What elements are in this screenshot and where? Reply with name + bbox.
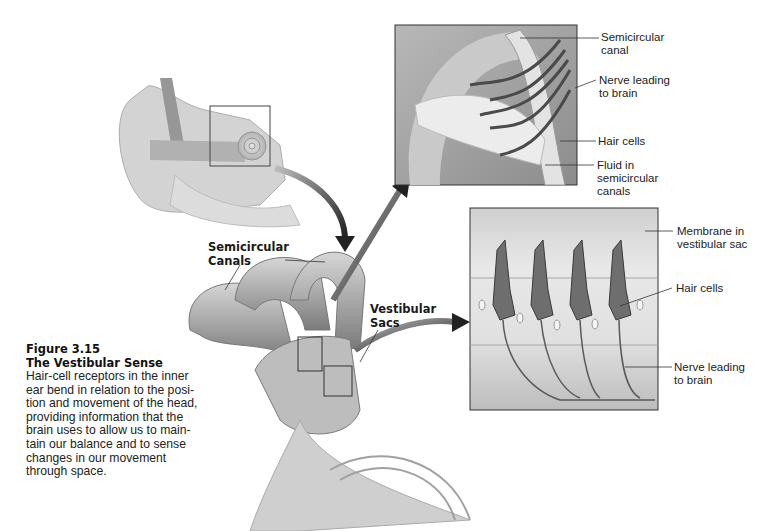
bottom-inset-vestibular-sac (470, 208, 658, 410)
caption-line: ear bend in relation to the posi- (26, 384, 201, 398)
caption-line: changes in our movement (26, 452, 201, 466)
caption-line: brain uses to allow us to main- (26, 424, 201, 438)
caption-line: providing information that the (26, 411, 201, 425)
top-inset-semicircular-canal (395, 25, 577, 185)
figure-number: Figure 3.15 (26, 342, 201, 356)
label-hair-cells-bottom: Hair cells (676, 282, 723, 295)
label-hair-cells-top: Hair cells (598, 135, 645, 148)
label-vestibular-sacs: Vestibular Sacs (370, 302, 436, 330)
caption-line: tion and movement of the head, (26, 397, 201, 411)
figure-caption: Figure 3.15 The Vestibular Sense Hair-ce… (26, 342, 201, 479)
label-nerve-top: Nerve leading to brain (599, 74, 670, 100)
label-semicircular-canal: Semicircular canal (601, 31, 664, 57)
figure-title: The Vestibular Sense (26, 356, 201, 370)
semicircular-canals-illustration (189, 252, 470, 531)
caption-line: Hair-cell receptors in the inner (26, 370, 201, 384)
caption-line: tain our balance and to sense (26, 438, 201, 452)
outer-ear-illustration (119, 78, 300, 227)
label-nerve-bottom: Nerve leading to brain (674, 361, 745, 387)
label-semicircular-canals: Semicircular Canals (208, 240, 289, 268)
caption-line: through space. (26, 465, 201, 479)
label-membrane: Membrane in vestibular sac (677, 225, 747, 251)
label-fluid: Fluid in semicircular canals (597, 159, 658, 198)
arrow-ear-to-canals (275, 168, 345, 240)
